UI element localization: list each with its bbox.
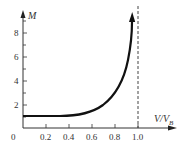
x-tick-0.6: 0.6 xyxy=(86,132,98,142)
y-tick-6: 6 xyxy=(14,52,19,62)
y-axis-label: M xyxy=(27,10,37,21)
y-axis: 2 4 6 8 M xyxy=(14,10,37,128)
x-axis: 0 0.2 0.4 0.6 0.8 1.0 V/VB xyxy=(11,113,177,142)
x-tick-1.0: 1.0 xyxy=(132,132,144,142)
curve-arrowhead-icon xyxy=(129,12,135,22)
x-tick-0.2: 0.2 xyxy=(40,132,51,142)
y-tick-8: 8 xyxy=(14,28,19,38)
y-tick-4: 4 xyxy=(14,76,19,86)
x-tick-0.8: 0.8 xyxy=(109,132,121,142)
multiplication-factor-chart: 2 4 6 8 M 0 0.2 0.4 0.6 0.8 1.0 V/VB xyxy=(0,0,180,149)
y-axis-arrow-icon xyxy=(21,10,26,18)
x-axis-label: V/VB xyxy=(154,113,174,127)
x-tick-0.4: 0.4 xyxy=(63,132,75,142)
m-curve xyxy=(23,22,132,116)
x-tick-0: 0 xyxy=(11,132,16,142)
y-tick-2: 2 xyxy=(14,100,19,110)
